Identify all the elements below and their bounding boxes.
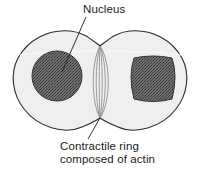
label-contractile-ring: Contractile ring composed of actin — [60, 140, 155, 166]
label-contractile-ring-line1: Contractile ring — [60, 140, 155, 153]
label-nucleus: Nucleus — [83, 3, 125, 16]
nucleus-right — [131, 56, 175, 102]
label-nucleus-text: Nucleus — [83, 3, 125, 15]
cytokinesis-figure: Nucleus Contractile ring composed of act… — [0, 0, 202, 170]
label-contractile-ring-line2: composed of actin — [60, 153, 155, 166]
nucleus-left — [32, 51, 82, 101]
